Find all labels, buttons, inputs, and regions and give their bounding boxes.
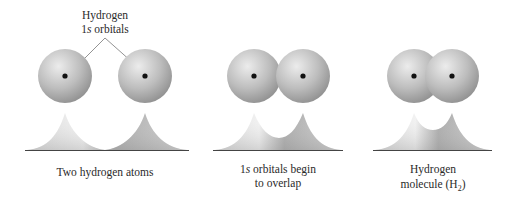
nucleus-dot <box>300 73 305 78</box>
nucleus-dot <box>411 73 416 78</box>
electron-density-curve <box>25 113 189 151</box>
top-label-line1: Hydrogen <box>82 9 128 22</box>
nucleus-dot <box>449 73 454 78</box>
top-label-line2: 1s orbitals <box>81 23 129 35</box>
electron-density-curve <box>373 113 492 151</box>
nucleus-dot <box>251 73 256 78</box>
top-label: Hydrogen 1s orbitals <box>81 9 132 62</box>
panel-begin-overlap: 1s orbitals begin to overlap <box>213 49 343 190</box>
caption-h2-line2: molecule (H2) <box>400 178 465 193</box>
caption-begin-overlap-line2: to overlap <box>255 177 302 190</box>
electron-density-curve <box>213 113 343 151</box>
nucleus-dot <box>62 73 67 78</box>
caption-h2-line1: Hydrogen <box>410 163 456 176</box>
leader-lines <box>82 38 132 62</box>
panel-two-atoms: Two hydrogen atoms <box>25 49 189 179</box>
caption-two-atoms: Two hydrogen atoms <box>57 166 154 179</box>
nucleus-dot <box>142 73 147 78</box>
hydrogen-orbital-overlap-diagram: Hydrogen 1s orbitals Two hydrogen atoms … <box>0 0 505 201</box>
caption-begin-overlap-line1: 1s orbitals begin <box>240 163 316 176</box>
panel-h2-molecule: Hydrogen molecule (H2) <box>373 49 492 193</box>
